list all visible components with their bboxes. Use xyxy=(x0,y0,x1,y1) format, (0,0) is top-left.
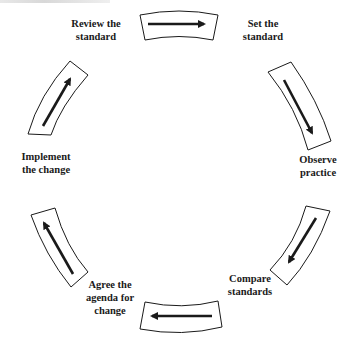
step-label-compare: Compare standards xyxy=(228,272,272,298)
step-label-set: Set the standard xyxy=(243,17,283,43)
arrow-agree-to-implement xyxy=(31,208,88,287)
step-label-observe: Observe practice xyxy=(299,153,336,179)
arrow-implement-to-review xyxy=(28,61,88,135)
step-label-implement: Implement the change xyxy=(22,150,71,176)
arrow-observe-to-compare xyxy=(270,206,330,285)
step-label-review: Review the standard xyxy=(71,17,120,43)
standards-cycle-diagram: Set the standard Observe practice Compar… xyxy=(0,0,349,343)
arrow-review-to-set xyxy=(140,11,218,40)
arrow-compare-to-agree xyxy=(140,301,222,333)
arrow-set-to-observe xyxy=(268,62,331,150)
step-label-agree: Agree the agenda for change xyxy=(86,278,134,317)
